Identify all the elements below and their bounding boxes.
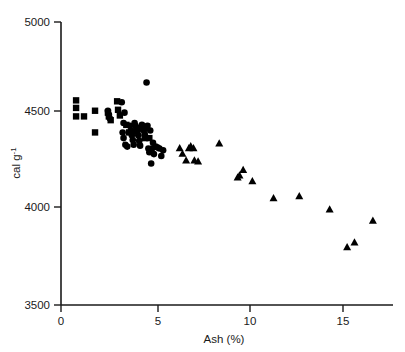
data-point-circle [137, 142, 144, 149]
data-point-square [115, 107, 121, 113]
x-axis-label: Ash (%) [204, 333, 245, 345]
data-point-circle [124, 143, 131, 150]
x-tick-label-5: 5 [155, 315, 161, 327]
data-point-circle [120, 120, 127, 127]
x-tick-label-10: 10 [244, 315, 257, 327]
data-point-square [73, 113, 79, 119]
y-axis-label: cal g-1 [9, 147, 22, 179]
data-point-triangle [350, 238, 358, 245]
scatter-chart: 5000 4500 4000 3500 0 5 10 15 Ash (%) ca… [0, 0, 405, 352]
data-point-circle [160, 147, 167, 154]
data-point-circle [158, 153, 165, 160]
data-point-circle [119, 129, 126, 136]
data-point-triangle [239, 166, 247, 173]
data-point-triangle [248, 177, 256, 184]
y-axis-label-exponent: -1 [9, 147, 18, 155]
series-circles-markers [105, 79, 167, 167]
data-point-square [92, 129, 98, 135]
data-point-square [73, 97, 79, 103]
svg-text:cal g-1: cal g-1 [9, 147, 22, 179]
data-point-circle [151, 151, 158, 158]
data-point-circle [130, 141, 137, 148]
y-tick-label-5000: 5000 [24, 16, 50, 28]
series-triangles-markers [176, 139, 377, 250]
data-point-circle [106, 115, 113, 122]
data-point-square [81, 113, 87, 119]
data-point-circle [118, 99, 125, 106]
data-point-circle [121, 109, 128, 116]
y-tick-label-3500: 3500 [24, 299, 50, 311]
x-tick-label-15: 15 [337, 315, 350, 327]
data-point-square [73, 105, 79, 111]
x-axis-ticks [61, 305, 343, 312]
data-point-circle [120, 135, 127, 142]
data-point-triangle [270, 194, 278, 201]
data-point-circle [143, 79, 150, 86]
chart-svg: 5000 4500 4000 3500 0 5 10 15 Ash (%) ca… [0, 0, 405, 352]
data-point-circle [135, 132, 142, 139]
y-tick-label-4500: 4500 [24, 105, 50, 117]
y-axis-label-base: cal g [10, 154, 22, 178]
data-point-triangle [326, 205, 334, 212]
data-point-triangle [369, 217, 377, 224]
data-point-square [92, 108, 98, 114]
data-point-circle [147, 127, 154, 134]
data-point-triangle [343, 243, 351, 250]
data-point-circle [148, 160, 155, 167]
data-point-triangle [215, 139, 223, 146]
y-tick-label-4000: 4000 [24, 201, 50, 213]
data-point-circle [141, 131, 148, 138]
data-point-triangle [295, 192, 303, 199]
x-tick-label-0: 0 [58, 315, 64, 327]
y-axis-ticks [54, 22, 61, 305]
data-point-triangle [182, 156, 190, 163]
